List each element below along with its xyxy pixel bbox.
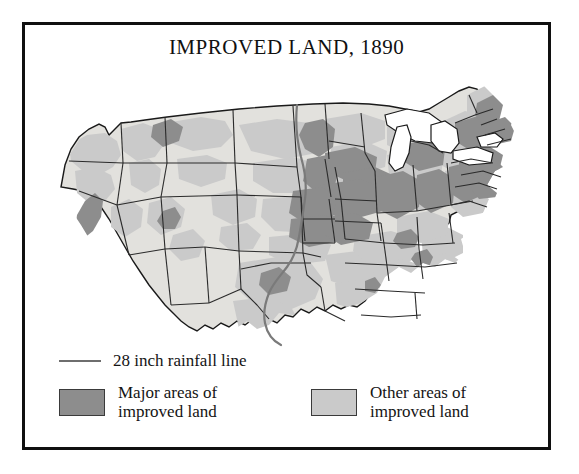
major-swatch-icon: [59, 389, 105, 416]
us-map-svg: [25, 67, 548, 387]
legend-label-rainfall: 28 inch rainfall line: [113, 351, 247, 370]
legend-label-other: Other areas of improved land: [370, 383, 469, 421]
legend-item-other: Other areas of improved land: [311, 383, 469, 421]
legend-label-major: Major areas of improved land: [118, 383, 217, 421]
map-title: IMPROVED LAND, 1890: [25, 35, 548, 60]
map-legend: 28 inch rainfall line Major areas of imp…: [25, 347, 548, 449]
other-swatch-icon: [311, 389, 357, 416]
legend-item-rainfall: 28 inch rainfall line: [59, 351, 247, 370]
us-map: [25, 67, 548, 387]
rainfall-line-icon: [59, 360, 101, 362]
map-frame: IMPROVED LAND, 1890: [22, 22, 551, 450]
legend-item-major: Major areas of improved land: [59, 383, 217, 421]
